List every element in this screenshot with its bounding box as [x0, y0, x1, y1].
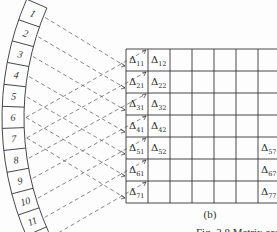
matrix-cell-delta-71: Δ71: [129, 186, 145, 200]
matrix-cell-delta-32: Δ32: [151, 98, 167, 112]
matrix-grid: Δ11Δ12Δ21Δ22Δ31Δ32Δ41Δ42Δ51Δ52Δ57Δ61Δ67Δ…: [126, 49, 277, 203]
arc-divider: [7, 168, 29, 172]
dashed-link-down: [29, 77, 125, 132]
arc-divider: [27, 0, 47, 8]
arc-divider: [18, 208, 39, 215]
arc-segment-label: 5: [11, 90, 17, 101]
arc-segment-label: 10: [19, 195, 32, 208]
matrix-order-diagram: 123456789101112Δ11Δ12Δ21Δ22Δ31Δ32Δ41Δ42Δ…: [0, 0, 277, 232]
matrix-cell-delta-12: Δ12: [151, 54, 167, 68]
matrix-cell-delta-77: Δ77: [261, 186, 277, 200]
arc-divider: [4, 148, 26, 150]
dashed-link-down: [33, 57, 125, 110]
arc-segment-label: 9: [16, 175, 23, 187]
arc-divider: [2, 128, 24, 129]
arc-divider: [7, 62, 29, 66]
subfigure-label: (b): [204, 208, 217, 221]
arc-divider: [12, 188, 33, 194]
dashed-link-down: [45, 17, 125, 66]
dashed-link-down: [38, 37, 125, 88]
matrix-cell-delta-57: Δ57: [261, 142, 277, 156]
arrow-head-icon: [142, 116, 146, 120]
dashed-link-up: [26, 50, 146, 117]
arc-segment-label: 6: [10, 112, 15, 123]
arrow-head-icon: [142, 182, 146, 186]
arc-divider: [2, 106, 24, 107]
matrix-cell-delta-31: Δ31: [129, 98, 145, 112]
connection-lines: [26, 17, 146, 232]
arc-segment-label: 11: [26, 215, 39, 229]
matrix-cell-delta-51: Δ51: [129, 142, 145, 156]
matrix-cell-delta-21: Δ21: [129, 76, 145, 90]
arc-segment-label: 1: [28, 7, 37, 19]
arc-segment-label: 8: [13, 154, 20, 166]
matrix-cell-delta-61: Δ61: [129, 164, 145, 178]
matrix-cell-delta-42: Δ42: [151, 120, 167, 134]
figure-caption: Fig. 2.8 Matrix order (a): [196, 226, 277, 232]
arrow-head-icon: [142, 72, 146, 76]
matrix-cell-delta-11: Δ11: [129, 54, 145, 68]
arc-divider: [4, 84, 26, 86]
dashed-link-down: [27, 97, 125, 154]
arrow-head-icon: [121, 151, 125, 155]
arc-divider: [12, 41, 33, 47]
diagram-canvas: 123456789101112Δ11Δ12Δ21Δ22Δ31Δ32Δ41Δ42Δ…: [0, 0, 277, 232]
arc-segment-label: 2: [22, 27, 30, 39]
matrix-cell-delta-22: Δ22: [151, 76, 167, 90]
arc-divider: [19, 20, 40, 27]
arc-segment-label: 4: [13, 69, 20, 81]
matrix-cell-delta-52: Δ52: [151, 142, 167, 156]
matrix-cell-delta-67: Δ67: [261, 164, 277, 178]
matrix-cell-delta-41: Δ41: [129, 120, 145, 134]
arc-segment-label: 3: [16, 48, 24, 60]
arc-segment-label: 7: [11, 133, 18, 144]
